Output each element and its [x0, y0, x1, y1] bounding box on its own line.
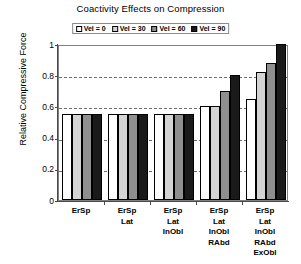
legend-swatch-icon — [112, 26, 118, 32]
x-axis-group-label: ErSpLatInObl — [150, 206, 196, 238]
bar — [118, 114, 128, 200]
x-axis-group-label-line: ExObl — [242, 248, 288, 259]
y-axis-tick-label: 1 — [32, 41, 54, 49]
plot-inner — [59, 46, 287, 200]
x-axis-group-label-line: RAbd — [242, 238, 288, 249]
x-axis-group-label-line: Lat — [104, 217, 150, 228]
legend-item-label: Vel = 0 — [84, 25, 106, 32]
bar — [200, 106, 210, 200]
y-axis-tick-labels: 00.20.40.60.81 — [30, 45, 54, 201]
bar-group — [243, 46, 289, 200]
bar — [210, 106, 220, 200]
x-axis-group-label-line: InObl — [150, 227, 196, 238]
bar — [256, 72, 266, 200]
legend-swatch-icon — [76, 26, 82, 32]
bar — [62, 114, 72, 200]
x-axis-line — [57, 201, 289, 202]
legend-item-label: Vel = 30 — [120, 25, 146, 32]
legend-item-label: Vel = 90 — [199, 25, 225, 32]
chart-legend: Vel = 0Vel = 30Vel = 60Vel = 90 — [72, 23, 230, 34]
plot-area — [58, 45, 288, 201]
x-axis-group-label-line: RAbd — [196, 238, 242, 249]
y-axis-tick-label: 0 — [32, 197, 54, 205]
x-axis-group-label-line: ErSp — [58, 206, 104, 217]
x-axis-group-label-line: ErSp — [196, 206, 242, 217]
bar — [220, 91, 230, 200]
legend-item: Vel = 90 — [191, 25, 225, 32]
y-axis-tick-label: 0.6 — [32, 103, 54, 111]
legend-item: Vel = 60 — [152, 25, 186, 32]
bar-group — [105, 46, 151, 200]
bar — [164, 114, 174, 200]
x-axis-tick-mark — [242, 201, 243, 205]
x-axis-group-label: ErSpLatInOblRAbdExObl — [242, 206, 288, 259]
bar — [82, 114, 92, 200]
bar — [246, 99, 256, 200]
bar — [108, 114, 118, 200]
x-axis-group-label-line: InObl — [242, 227, 288, 238]
x-axis-group-label-line: ErSp — [150, 206, 196, 217]
x-axis-group-label: ErSpLatInOblRAbd — [196, 206, 242, 248]
legend-item-label: Vel = 60 — [160, 25, 186, 32]
x-axis-group-label: ErSpLat — [104, 206, 150, 227]
chart-title: Coactivity Effects on Compression — [0, 3, 301, 14]
bar-group — [151, 46, 197, 200]
x-axis-group-label-line: Lat — [150, 217, 196, 228]
x-axis-group-label-line: Lat — [242, 217, 288, 228]
bar — [72, 114, 82, 200]
legend-item: Vel = 0 — [76, 25, 106, 32]
y-axis-title: Relative Compressive Force — [18, 14, 28, 164]
bar — [230, 75, 240, 200]
legend-swatch-icon — [191, 26, 197, 32]
bar — [266, 63, 276, 200]
bar — [92, 114, 102, 200]
x-axis-group-label-line: ErSp — [242, 206, 288, 217]
bar — [154, 114, 164, 200]
y-axis-tick-label: 0.8 — [32, 72, 54, 80]
x-axis-group-label-line: Lat — [196, 217, 242, 228]
chart-figure: Coactivity Effects on Compression Vel = … — [0, 0, 301, 264]
bar — [174, 114, 184, 200]
x-axis-tick-mark — [150, 201, 151, 205]
x-axis-group-label-line: InObl — [196, 227, 242, 238]
x-axis-group-label: ErSp — [58, 206, 104, 217]
bar-group — [59, 46, 105, 200]
x-axis-tick-mark — [104, 201, 105, 205]
bar — [276, 44, 286, 200]
x-axis-tick-mark — [196, 201, 197, 205]
x-axis-group-label-line: ErSp — [104, 206, 150, 217]
legend-item: Vel = 30 — [112, 25, 146, 32]
y-axis-tick-label: 0.4 — [32, 134, 54, 142]
legend-swatch-icon — [152, 26, 158, 32]
bar — [138, 114, 148, 200]
y-axis-tick-label: 0.2 — [32, 165, 54, 173]
bar — [184, 114, 194, 200]
bar — [128, 114, 138, 200]
bar-group — [197, 46, 243, 200]
